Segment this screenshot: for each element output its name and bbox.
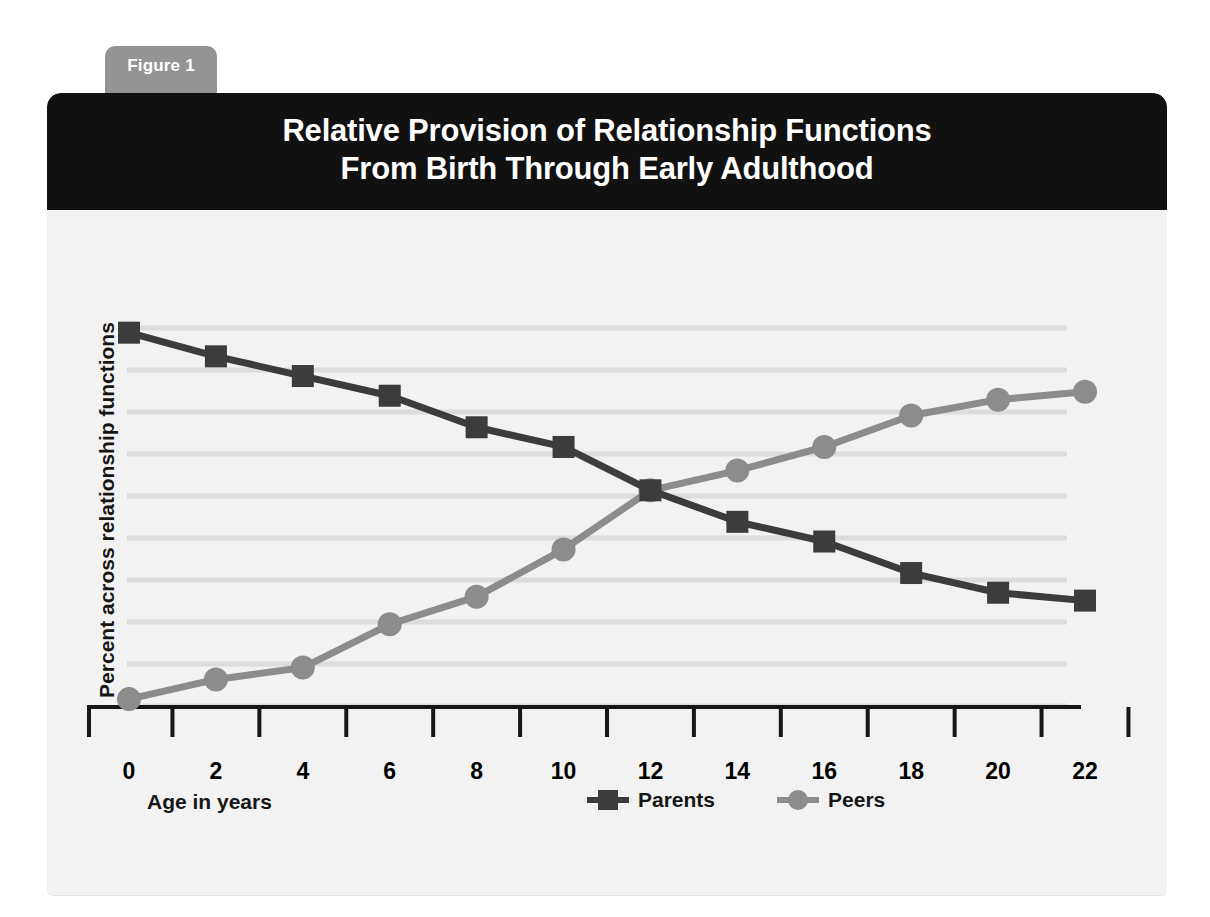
legend-label-peers: Peers <box>828 788 885 812</box>
svg-text:20: 20 <box>985 758 1011 784</box>
svg-text:14: 14 <box>725 758 751 784</box>
svg-text:0: 0 <box>123 758 136 784</box>
legend-item-parents: Parents <box>587 788 715 812</box>
legend-item-peers: Peers <box>777 788 885 812</box>
legend-marker-square-icon <box>587 790 629 810</box>
svg-text:12: 12 <box>638 758 664 784</box>
svg-text:22: 22 <box>1072 758 1098 784</box>
figure-header-bar: Relative Provision of Relationship Funct… <box>47 93 1167 210</box>
series-peers <box>117 380 1097 711</box>
legend-marker-circle-icon <box>777 790 819 810</box>
figure-title-line-2: From Birth Through Early Adulthood <box>47 150 1167 188</box>
svg-text:2: 2 <box>210 758 223 784</box>
plot-area: Percent across relationship functions 02… <box>47 210 1167 895</box>
chart-legend: Parents Peers <box>587 788 885 812</box>
svg-text:18: 18 <box>898 758 924 784</box>
svg-text:10: 10 <box>551 758 577 784</box>
axis-lines <box>87 707 1081 737</box>
gridlines <box>127 328 1067 706</box>
x-axis-tick-labels: 0246810121416182022 <box>123 758 1098 784</box>
figure-root: Figure 1 Relative Provision of Relations… <box>0 0 1210 917</box>
figure-tab-label: Figure 1 <box>105 56 217 76</box>
series-parents <box>118 322 1096 612</box>
figure-tab: Figure 1 <box>105 46 217 96</box>
figure-card: Relative Provision of Relationship Funct… <box>47 93 1167 895</box>
svg-text:16: 16 <box>811 758 837 784</box>
svg-text:4: 4 <box>296 758 309 784</box>
figure-title-line-1: Relative Provision of Relationship Funct… <box>282 113 931 148</box>
x-axis-label: Age in years <box>147 790 272 814</box>
legend-label-parents: Parents <box>638 788 715 812</box>
svg-text:8: 8 <box>470 758 483 784</box>
svg-text:6: 6 <box>383 758 396 784</box>
figure-title: Relative Provision of Relationship Funct… <box>47 112 1167 188</box>
x-axis-ticks <box>172 707 1128 737</box>
